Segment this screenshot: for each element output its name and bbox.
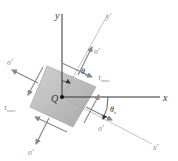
x-prime-axis-label: x' (152, 143, 159, 152)
x-axis-label: x (162, 92, 168, 103)
y-axis-label: y (54, 10, 60, 21)
y-prime-axis-label: y' (105, 12, 112, 21)
sigma-arrow-bottom (36, 118, 49, 144)
sigma-label-left: σ' (7, 58, 13, 67)
sigma-arrow-left (12, 70, 38, 83)
sigma-label-top: σ' (94, 47, 100, 56)
sigma-label-bottom: σ' (28, 148, 34, 157)
sigma-arrow-right (86, 107, 112, 120)
origin-point (60, 95, 64, 99)
stress-element-diagram: y x y' x' Q σ' σ' σ' σ' τmax τmax θs θs (0, 0, 178, 161)
theta-s-label-upper: θs (81, 67, 87, 77)
sigma-label-right: σ' (98, 124, 104, 133)
tau-max-label-right: τmax (98, 73, 110, 83)
tau-max-label-left: τmax (4, 103, 16, 113)
origin-label: Q (51, 93, 59, 104)
theta-s-label-lower: θs (110, 105, 116, 115)
